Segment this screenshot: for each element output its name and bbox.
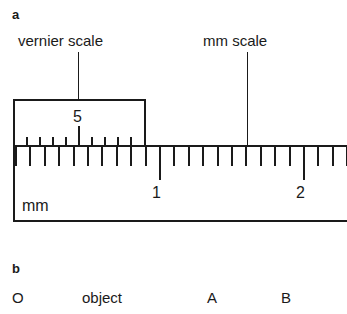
- mm-minor-tick: [173, 147, 175, 166]
- mm-minor-tick: [116, 147, 118, 166]
- mm-minor-tick: [130, 147, 132, 166]
- mm-unit-label: mm: [22, 198, 49, 214]
- vernier-number-5: 5: [73, 109, 82, 125]
- mm-minor-tick: [274, 147, 276, 166]
- mm-minor-tick: [29, 147, 31, 166]
- mm-scale-callout-leader-line: [247, 52, 248, 145]
- mm-minor-tick: [101, 147, 103, 166]
- mm-number-2: 2: [296, 185, 305, 201]
- vernier-caliper-figure: a vernier scalemm scale 5 12 mm b Oobjec…: [0, 0, 347, 314]
- mm-scale-callout: mm scale: [203, 33, 267, 48]
- point-label-object: object: [82, 290, 122, 305]
- mm-minor-tick: [289, 147, 291, 166]
- mm-minor-tick: [245, 147, 247, 166]
- point-label-o: O: [12, 290, 24, 305]
- mm-minor-tick: [145, 147, 147, 166]
- mm-minor-tick: [332, 147, 334, 166]
- mm-minor-tick: [15, 147, 17, 166]
- mm-minor-tick: [188, 147, 190, 166]
- mm-number-1: 1: [152, 185, 161, 201]
- mm-minor-tick: [87, 147, 89, 166]
- mm-minor-tick: [73, 147, 75, 166]
- panel-b-letter: b: [12, 262, 20, 275]
- vernier-scale-callout: vernier scale: [18, 33, 103, 48]
- mm-major-tick: [303, 147, 305, 180]
- panel-a-letter: a: [12, 8, 19, 21]
- mm-minor-tick: [260, 147, 262, 166]
- mm-minor-tick: [217, 147, 219, 166]
- mm-major-tick: [159, 147, 161, 180]
- vernier-scale-callout-leader-line: [78, 52, 79, 99]
- mm-minor-tick: [58, 147, 60, 166]
- mm-minor-tick: [317, 147, 319, 166]
- point-label-a: A: [207, 290, 217, 305]
- point-label-b: B: [281, 290, 291, 305]
- mm-minor-tick: [202, 147, 204, 166]
- mm-ruler-body: 12 mm: [13, 145, 347, 222]
- mm-minor-tick: [231, 147, 233, 166]
- mm-minor-tick: [44, 147, 46, 166]
- vernier-scale-box: 5: [13, 99, 146, 146]
